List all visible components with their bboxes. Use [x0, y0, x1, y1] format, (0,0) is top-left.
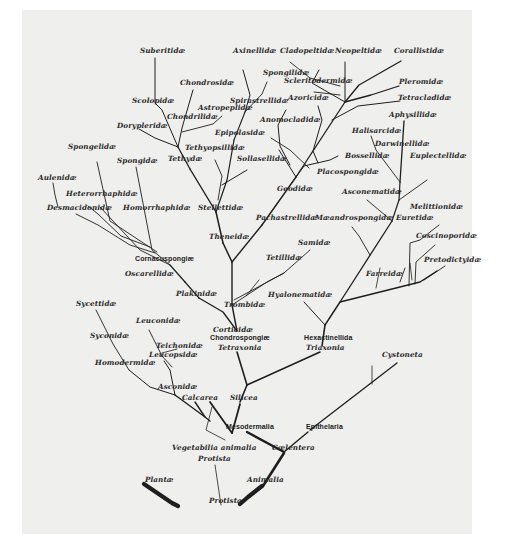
taxon-label-hyalonematidae: Hyalonematidæ: [268, 291, 332, 298]
tree-branch: [352, 227, 370, 255]
taxon-label-aphysillidae: Aphysillidæ: [389, 111, 437, 118]
tree-branch: [206, 407, 225, 440]
taxon-label-trombidae: Trombidæ: [224, 301, 265, 308]
taxon-label-tethydae: Tethydæ: [168, 155, 202, 162]
tree-branch: [247, 352, 320, 385]
tree-branch: [345, 61, 401, 102]
taxon-label-sollasellidae: Sollasellidæ: [237, 155, 287, 162]
tree-branch: [310, 363, 397, 430]
tree-branch: [223, 243, 232, 262]
taxon-label-cladopeltidae: Cladopeltidæ: [280, 47, 334, 54]
taxon-label-suberitidae: Suberitidæ: [140, 47, 185, 54]
tree-branch: [215, 160, 222, 200]
taxon-label-farreidae: Farreidæ: [366, 270, 403, 277]
taxon-label-sycettidae: Sycettidæ: [76, 300, 116, 307]
tree-branch: [240, 486, 262, 504]
taxon-label-chondrosidae: Chondrosidæ: [180, 79, 234, 86]
taxon-label-aulenidae: Aulenidæ: [38, 174, 77, 181]
taxon-label-cystoneta: Cystoneta: [382, 351, 423, 358]
taxon-label-plakinidae: Plakinidæ: [176, 290, 217, 297]
taxon-label-homorrhaphidae: Homorrhaphidæ: [123, 204, 190, 211]
tree-branch: [222, 170, 247, 185]
taxon-label-coelentera: Cœlentera: [272, 444, 315, 451]
taxon-label-spongelidae: Spongelidæ: [68, 143, 116, 150]
tree-branch: [424, 266, 445, 280]
taxon-label-scolopidae: Scolopidæ: [132, 97, 174, 104]
taxon-label-anomocladidae: Anomocladidæ: [260, 116, 320, 123]
taxon-label-epithelaria: Epithelaria: [306, 423, 343, 430]
taxon-label-stellettidae: Stellettidæ: [198, 204, 243, 211]
tree-branch: [340, 221, 392, 302]
taxon-label-scleritodermidae: Scleritodermidæ: [284, 77, 352, 84]
taxon-label-tethyopsillidae: Tethyopsillidæ: [185, 144, 245, 151]
taxon-label-bossellidae: Bossellidæ: [345, 152, 389, 159]
tree-branch: [144, 484, 178, 506]
taxon-label-euplectellidae: Euplectellidæ: [410, 152, 467, 159]
taxon-label-maeandrospongidae: Mæandrospongidæ: [315, 214, 393, 221]
taxon-label-teichonidae: Teichonidæ: [156, 342, 203, 349]
taxon-label-syconidae: Syconidæ: [90, 332, 129, 339]
taxon-label-melittionidae: Melittionidæ: [410, 203, 463, 210]
taxon-label-neopeltidae: Neopeltidæ: [335, 47, 382, 54]
taxon-label-heterorrhaphidae: Heterorrhaphidæ: [66, 190, 138, 197]
taxon-label-pleromidae: Pleromidæ: [399, 78, 443, 85]
taxon-label-oscarellidae: Oscarellidæ: [125, 270, 174, 277]
taxon-label-azoricidae: Azoricidæ: [288, 94, 329, 101]
taxon-label-leucopsidae: Leucopsidæ: [149, 351, 198, 358]
tree-branch: [304, 302, 325, 325]
taxon-label-calcarea: Calcarea: [182, 394, 218, 401]
tree-branch: [139, 129, 178, 147]
taxon-label-chondrospongiae: Chondrospongiæ: [210, 334, 270, 341]
taxon-label-axinellidae: Axinellidæ: [233, 47, 276, 54]
taxon-label-leuconidae: Leuconidæ: [136, 317, 181, 324]
taxon-label-pachastrellidae: Pachastrellidæ: [256, 214, 317, 221]
taxon-label-protista-root: Protista: [209, 497, 242, 504]
tree-branch: [410, 263, 412, 280]
tree-branch: [195, 402, 205, 417]
taxon-label-silicea: Silicea: [230, 394, 258, 401]
tree-branch: [232, 225, 262, 262]
taxon-label-tetillidae: Tetillidæ: [266, 254, 302, 261]
taxon-label-hexactinellida: Hexactinellida: [304, 334, 352, 341]
taxon-label-halisarcidae: Halisarcidæ: [352, 127, 401, 134]
taxon-label-darwinellidae: Darwinellidæ: [375, 140, 430, 147]
taxon-label-tetracladidae: Tetracladidæ: [398, 94, 451, 101]
taxon-label-plantae: Plantæ: [145, 476, 174, 483]
taxon-label-dorypleridae: Dorypleridæ: [117, 122, 168, 129]
taxon-label-chondrilidae: Chondrilidæ: [167, 113, 218, 120]
taxon-label-coscinoporidae: Coscinoporidæ: [416, 232, 477, 239]
taxon-label-pretodictyidae: Pretodictyidæ: [424, 256, 481, 263]
taxon-label-corallistidae: Corallistidæ: [394, 47, 444, 54]
taxon-label-corticidae: Corticidæ: [213, 326, 253, 333]
taxon-label-mesodermalia: Mesodermalia: [226, 423, 274, 430]
taxon-label-theneidae: Theneidæ: [209, 233, 249, 240]
taxon-label-protista-upper: Protista: [198, 455, 231, 462]
tree-branch: [399, 180, 427, 200]
taxon-label-tetraxonia: Tetraxonia: [218, 344, 262, 351]
taxon-label-cornacuspongiae: Cornacuspongiæ: [135, 255, 194, 262]
taxon-label-animalia: Animalia: [247, 476, 284, 483]
tree-branch: [237, 352, 247, 385]
taxon-label-euretidae: Euretidæ: [396, 214, 434, 221]
taxon-label-spirastrellidae: Spirastrellidæ: [230, 97, 288, 104]
taxon-label-astropeplidae: Astropeplidæ: [198, 104, 253, 111]
taxon-label-epipolasidae: Epipolasidæ: [215, 129, 265, 136]
taxon-label-homodermidae: Homodermidæ: [95, 359, 156, 366]
taxon-label-triaxonia: Triaxonia: [306, 344, 345, 351]
taxon-label-samidae: Samidæ: [298, 239, 331, 246]
taxon-label-geodidae: Geodidæ: [277, 185, 313, 192]
taxon-label-placospongidae: Placospongidæ: [317, 168, 379, 175]
tree-branch: [76, 214, 155, 253]
taxon-label-desmacidonidae: Desmacidonidæ: [47, 204, 112, 211]
taxon-label-vegetabilia-animalia: Vegetabilia animalia: [172, 444, 256, 451]
taxon-label-spongidae: Spongidæ: [117, 157, 158, 164]
taxon-label-asconematidae: Asconematidæ: [342, 188, 402, 195]
taxon-label-asconidae: Asconidæ: [158, 383, 197, 390]
tree-branch: [271, 138, 309, 168]
